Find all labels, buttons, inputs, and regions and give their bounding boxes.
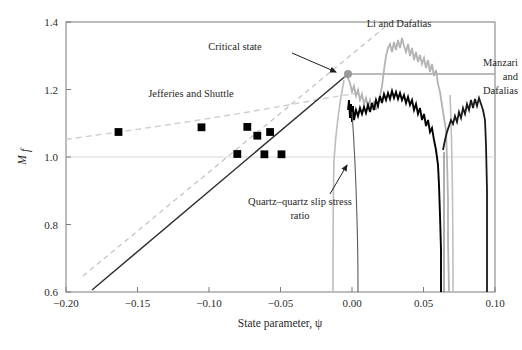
x-tick-label: 0.00 bbox=[342, 297, 362, 309]
x-axis-label: State parameter, ψ bbox=[238, 317, 323, 330]
critical-state-point bbox=[344, 70, 352, 78]
y-axis-label-main: M bbox=[16, 154, 28, 166]
annotation-manzari-line2: and bbox=[503, 71, 519, 82]
critical-state-line bbox=[92, 74, 348, 290]
y-tick-labels: 0.6 0.8 1.0 1.2 1.4 bbox=[44, 16, 58, 298]
x-tick-label: 0.05 bbox=[414, 297, 434, 309]
x-tick-label: −0.15 bbox=[125, 297, 151, 309]
figure-root: −0.20 −0.15 −0.10 −0.05 0.00 0.05 0.10 0… bbox=[0, 0, 522, 350]
data-point-square bbox=[198, 123, 206, 131]
data-point-square bbox=[261, 150, 269, 158]
x-tick-label: −0.10 bbox=[196, 297, 222, 309]
data-point-square bbox=[253, 132, 261, 140]
y-axis-ticks bbox=[66, 22, 71, 292]
annotation-quartz-arrow bbox=[330, 165, 347, 194]
x-tick-label: −0.05 bbox=[268, 297, 294, 309]
annotation-manzari-line1: Manzari bbox=[483, 57, 518, 68]
annotation-li-and-dafalias: Li and Dafalias bbox=[367, 18, 432, 29]
annotation-critical-state: Critical state bbox=[208, 41, 262, 52]
x-axis-ticks bbox=[66, 287, 495, 292]
annotation-quartz-line2: ratio bbox=[290, 210, 309, 221]
annotation-jefferies-and-shuttle: Jefferies and Shuttle bbox=[148, 88, 234, 99]
y-tick-label: 1.0 bbox=[44, 151, 58, 163]
annotation-quartz-line1: Quartz–quartz slip stress bbox=[248, 196, 352, 207]
y-tick-label: 0.8 bbox=[44, 219, 58, 231]
x-tick-labels: −0.20 −0.15 −0.10 −0.05 0.00 0.05 0.10 bbox=[53, 297, 505, 309]
manzari-dafalias-sim-trace bbox=[348, 91, 441, 292]
x-tick-label: −0.20 bbox=[53, 297, 79, 309]
y-axis-label: M f bbox=[16, 147, 32, 166]
y-tick-label: 1.2 bbox=[44, 84, 58, 96]
y-axis-label-sub: f bbox=[19, 147, 32, 152]
data-point-square bbox=[266, 128, 274, 136]
li-dafalias-sim-trace bbox=[344, 38, 449, 292]
y-tick-label: 0.6 bbox=[44, 286, 58, 298]
data-point-square bbox=[115, 128, 123, 136]
manzari-dafalias-sim-right bbox=[443, 98, 487, 292]
y-tick-label: 1.4 bbox=[44, 16, 58, 28]
x-tick-label: 0.10 bbox=[485, 297, 505, 309]
plot-content bbox=[66, 17, 495, 292]
data-point-square bbox=[278, 150, 286, 158]
manzari-dafalias-sim-tail bbox=[352, 112, 358, 292]
li-dafalias-dashed-line bbox=[83, 17, 397, 276]
jefferies-shuttle-curve bbox=[66, 93, 360, 139]
data-point-square bbox=[243, 123, 251, 131]
data-point-square bbox=[233, 150, 241, 158]
annotation-critical-state-arrow bbox=[292, 53, 336, 72]
annotation-manzari-line3: Dafalias bbox=[483, 85, 518, 96]
scatter-chart: −0.20 −0.15 −0.10 −0.05 0.00 0.05 0.10 0… bbox=[0, 0, 522, 350]
